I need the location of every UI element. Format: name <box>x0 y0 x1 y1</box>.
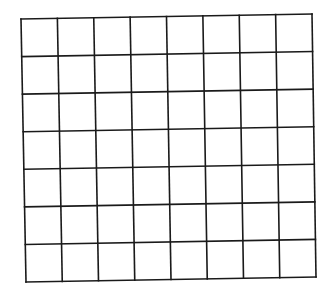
grid-vertical-line <box>239 15 243 278</box>
grid-lines <box>21 14 316 282</box>
grid-diagram <box>0 0 328 298</box>
grid-vertical-line <box>94 18 99 281</box>
grid-vertical-line <box>57 18 62 281</box>
grid-vertical-line <box>203 16 207 279</box>
grid-vertical-line <box>167 17 172 280</box>
grid-vertical-line <box>276 15 280 278</box>
grid-vertical-line <box>312 14 316 277</box>
grid-vertical-line <box>130 17 135 280</box>
grid-vertical-line <box>21 19 26 282</box>
